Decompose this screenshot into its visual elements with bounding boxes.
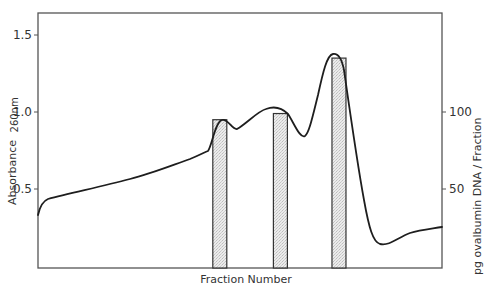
y-axis-title: Absorbance 260nm (6, 97, 20, 205)
absorbance-curve (38, 54, 442, 244)
plot-frame (38, 13, 442, 268)
dna-bar (213, 120, 227, 268)
dna-bar (273, 114, 287, 268)
dna-bar (332, 58, 346, 268)
y-tick-label: 1.5 (13, 28, 32, 42)
y-axis-right: 50100 (442, 105, 472, 196)
x-axis-title: Fraction Number (200, 273, 292, 286)
y2-tick-label: 50 (449, 182, 464, 196)
y-axis-title-sub: 260nm (9, 97, 20, 132)
y2-tick-label: 100 (449, 105, 472, 119)
y-axis-title-main: Absorbance (6, 140, 19, 205)
chart: 0.51.01.5 50100 Fraction Number Absorban… (0, 0, 493, 289)
y2-axis-title: pg ovalbumin DNA / Fraction (471, 117, 484, 275)
dna-bars (213, 58, 346, 268)
